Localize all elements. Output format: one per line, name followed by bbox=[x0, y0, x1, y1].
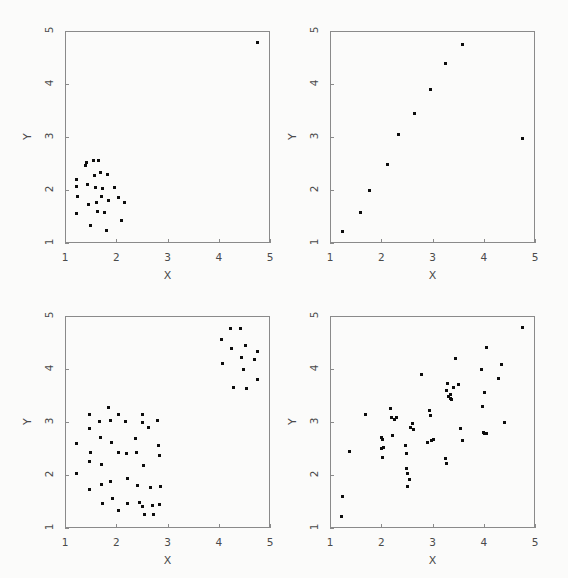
data-point bbox=[256, 378, 259, 381]
x-tick bbox=[433, 524, 434, 528]
x-tick bbox=[219, 239, 220, 243]
x-tick-label: 2 bbox=[371, 536, 391, 548]
data-point bbox=[156, 419, 159, 422]
data-point bbox=[75, 442, 78, 445]
y-tick bbox=[65, 84, 69, 85]
data-point bbox=[94, 186, 97, 189]
data-point bbox=[105, 229, 108, 232]
data-point bbox=[230, 347, 233, 350]
y-tick bbox=[65, 31, 69, 32]
x-tick-label: 1 bbox=[320, 251, 340, 263]
data-point bbox=[391, 434, 394, 437]
data-point bbox=[412, 428, 415, 431]
y-tick-label: 3 bbox=[308, 126, 320, 146]
data-point bbox=[368, 189, 371, 192]
x-axis-label: X bbox=[423, 554, 443, 567]
y-tick-label: 3 bbox=[43, 126, 55, 146]
y-tick bbox=[330, 528, 334, 529]
data-point bbox=[141, 421, 144, 424]
data-point bbox=[446, 382, 449, 385]
data-point bbox=[101, 502, 104, 505]
y-tick-label: 5 bbox=[43, 305, 55, 325]
y-tick-label: 4 bbox=[308, 358, 320, 378]
data-point bbox=[95, 201, 98, 204]
data-point bbox=[141, 505, 144, 508]
y-tick-label: 2 bbox=[308, 179, 320, 199]
y-axis-label: Y bbox=[21, 412, 34, 432]
data-point bbox=[120, 219, 123, 222]
x-tick bbox=[381, 524, 382, 528]
data-point bbox=[147, 426, 150, 429]
data-point bbox=[109, 419, 112, 422]
data-point bbox=[88, 413, 91, 416]
data-point bbox=[92, 159, 95, 162]
data-point bbox=[117, 413, 120, 416]
data-point bbox=[386, 163, 389, 166]
data-point bbox=[88, 488, 91, 491]
y-tick bbox=[330, 190, 334, 191]
x-tick bbox=[168, 524, 169, 528]
data-point bbox=[159, 485, 162, 488]
y-tick-label: 5 bbox=[308, 305, 320, 325]
data-point bbox=[444, 62, 447, 65]
x-tick-label: 4 bbox=[209, 251, 229, 263]
data-point bbox=[408, 478, 411, 481]
data-point bbox=[521, 137, 524, 140]
y-tick-label: 5 bbox=[308, 20, 320, 40]
y-axis-label: Y bbox=[286, 127, 299, 147]
y-tick-label: 5 bbox=[43, 20, 55, 40]
data-point bbox=[87, 203, 90, 206]
y-tick bbox=[65, 190, 69, 191]
data-point bbox=[432, 438, 435, 441]
y-tick-label: 2 bbox=[43, 464, 55, 484]
data-point bbox=[103, 211, 106, 214]
y-tick bbox=[65, 422, 69, 423]
data-point bbox=[483, 391, 486, 394]
data-point bbox=[449, 393, 452, 396]
x-axis-label: X bbox=[158, 269, 178, 282]
data-point bbox=[406, 485, 409, 488]
y-tick-label: 4 bbox=[308, 73, 320, 93]
x-tick bbox=[270, 239, 271, 243]
data-point bbox=[149, 486, 152, 489]
data-point bbox=[75, 212, 78, 215]
x-tick bbox=[381, 239, 382, 243]
y-tick bbox=[65, 316, 69, 317]
x-tick-label: 1 bbox=[55, 536, 75, 548]
data-point bbox=[93, 174, 96, 177]
data-point bbox=[117, 196, 120, 199]
data-point bbox=[428, 409, 431, 412]
x-tick bbox=[484, 239, 485, 243]
y-tick bbox=[65, 475, 69, 476]
y-tick-label: 2 bbox=[43, 179, 55, 199]
data-point bbox=[136, 484, 139, 487]
data-point bbox=[389, 407, 392, 410]
data-point bbox=[404, 444, 407, 447]
y-tick bbox=[330, 316, 334, 317]
data-point bbox=[359, 211, 362, 214]
x-tick bbox=[433, 239, 434, 243]
data-point bbox=[445, 462, 448, 465]
data-point bbox=[253, 358, 256, 361]
data-point bbox=[452, 386, 455, 389]
data-point bbox=[229, 327, 232, 330]
data-point bbox=[135, 451, 138, 454]
x-tick-label: 3 bbox=[158, 536, 178, 548]
data-point bbox=[256, 350, 259, 353]
data-point bbox=[429, 414, 432, 417]
data-point bbox=[85, 161, 88, 164]
data-point bbox=[426, 441, 429, 444]
data-point bbox=[364, 413, 367, 416]
data-point bbox=[481, 405, 484, 408]
data-point bbox=[110, 441, 113, 444]
data-point bbox=[521, 326, 524, 329]
x-tick-label: 1 bbox=[55, 251, 75, 263]
x-tick bbox=[219, 524, 220, 528]
x-tick-label: 1 bbox=[320, 536, 340, 548]
data-point bbox=[461, 439, 464, 442]
y-tick bbox=[65, 137, 69, 138]
y-tick bbox=[330, 84, 334, 85]
data-point bbox=[117, 451, 120, 454]
data-point bbox=[138, 501, 141, 504]
x-tick-label: 4 bbox=[474, 251, 494, 263]
